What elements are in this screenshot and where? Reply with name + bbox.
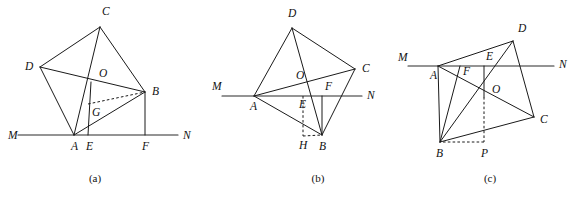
figure-b-vertex-label-c: C	[362, 62, 370, 74]
figure-c-vertex-label-b: B	[436, 147, 443, 159]
figure-c-vertex-label-a: A	[429, 69, 438, 81]
figure-c-segment-cb	[440, 117, 534, 142]
figure-c-vertex-label-o: O	[492, 83, 501, 95]
figure-b-segment-cb	[322, 69, 355, 135]
figure-c: DMENAFOCBP(c)	[397, 22, 568, 185]
figure-c-vertex-label-c: C	[540, 113, 548, 125]
figure-a-vertex-label-n: N	[182, 129, 192, 141]
figure-a-vertex-label-f: F	[141, 140, 150, 152]
figure-a-segment-cb	[100, 27, 145, 92]
figure-a-vertex-label-d: D	[24, 60, 34, 72]
figure-c-vertex-label-f: F	[462, 65, 471, 77]
figure-a-segment-gb-dashed	[88, 92, 145, 104]
figure-a: CDOBGMNAEF(a)	[7, 5, 192, 185]
figure-c-vertex-label-m: M	[397, 51, 409, 63]
figure-a-segment-da	[40, 67, 74, 135]
figure-b-vertex-label-b: B	[319, 140, 326, 152]
figure-b-vertex-label-a: A	[249, 100, 258, 112]
figure-a-segment-ab	[74, 92, 145, 135]
figure-a-segment-ac	[74, 27, 100, 135]
figure-b-vertex-label-d: D	[287, 7, 297, 19]
figure-a-vertex-label-o: O	[99, 67, 108, 79]
figure-a-segment-db	[40, 67, 145, 92]
figure-a-vertex-label-b: B	[152, 85, 159, 97]
figure-c-segment-ba	[438, 66, 440, 142]
figure-b-vertex-label-e: E	[298, 98, 306, 110]
figure-c-segment-fb	[440, 66, 460, 142]
figure-a-segment-cd	[40, 27, 100, 67]
figure-b-vertex-label-o: O	[296, 69, 305, 81]
figure-b-segment-ba	[254, 96, 322, 135]
figure-b-caption: (b)	[312, 172, 325, 185]
geometry-figure-board: CDOBGMNAEF(a)DCOFMNAEHB(b)DMENAFOCBP(c)	[0, 0, 577, 198]
figure-c-segment-ac	[438, 66, 534, 117]
figure-a-vertex-label-e: E	[85, 140, 93, 152]
figure-b-vertex-label-m: M	[211, 80, 223, 92]
figure-c-vertex-label-p: P	[480, 147, 488, 159]
figure-b-segment-hb-dashed	[303, 135, 322, 136]
figure-a-segment-eo	[88, 82, 91, 135]
figure-c-segment-ad	[438, 41, 513, 66]
figure-c-segment-dc	[513, 41, 534, 117]
figure-b-vertex-label-f: F	[324, 80, 333, 92]
figure-a-caption: (a)	[89, 172, 102, 185]
figure-b-vertex-label-n: N	[366, 89, 376, 101]
figure-b-vertex-label-h: H	[298, 139, 308, 151]
figure-a-vertex-label-a: A	[70, 140, 79, 152]
figure-c-caption: (c)	[484, 172, 497, 185]
geometry-diagram-svg: CDOBGMNAEF(a)DCOFMNAEHB(b)DMENAFOCBP(c)	[0, 0, 577, 198]
figure-a-vertex-label-g: G	[92, 106, 101, 118]
figure-b: DCOFMNAEHB(b)	[211, 7, 376, 185]
figure-c-segment-db	[440, 41, 513, 142]
figure-c-vertex-label-e: E	[485, 50, 493, 62]
figure-c-vertex-label-n: N	[558, 58, 568, 70]
figure-a-vertex-label-m: M	[7, 129, 19, 141]
figure-b-segment-ad	[254, 28, 292, 96]
figure-a-vertex-label-c: C	[102, 5, 110, 17]
figure-c-vertex-label-d: D	[517, 22, 527, 34]
